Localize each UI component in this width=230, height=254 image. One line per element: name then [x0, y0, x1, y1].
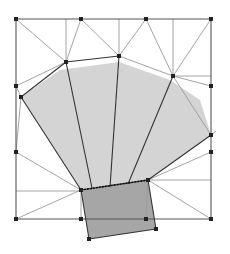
- mesh-diagram: [0, 0, 230, 254]
- vertex-marker: [209, 217, 213, 221]
- diagram-canvas: [0, 0, 230, 254]
- vertex-marker: [144, 217, 148, 221]
- vertex-marker: [209, 150, 213, 154]
- vertex-marker: [87, 237, 91, 241]
- vertex-marker: [79, 17, 83, 21]
- vertex-marker: [146, 178, 150, 182]
- vertex-marker: [14, 217, 18, 221]
- vertex-marker: [14, 150, 18, 154]
- vertex-marker: [14, 17, 18, 21]
- vertex-marker: [209, 17, 213, 21]
- vertex-marker: [154, 227, 158, 231]
- vertex-marker: [209, 84, 213, 88]
- vertex-marker: [171, 74, 175, 78]
- vertex-marker: [144, 17, 148, 21]
- vertex-marker: [14, 84, 18, 88]
- vertex-marker: [117, 54, 121, 58]
- vertex-marker: [209, 133, 213, 137]
- vertex-marker: [19, 95, 23, 99]
- vertex-marker: [64, 60, 68, 64]
- vertex-marker: [79, 217, 83, 221]
- vertex-marker: [79, 188, 83, 192]
